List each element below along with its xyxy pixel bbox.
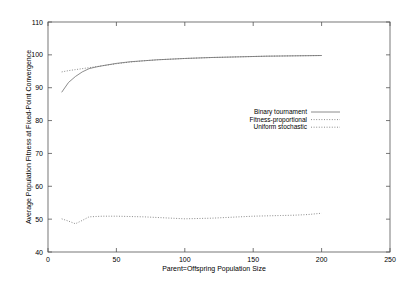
series-line-2 bbox=[62, 213, 322, 224]
plot-frame-group bbox=[48, 22, 390, 252]
y-tick-label: 60 bbox=[35, 183, 43, 190]
series-line-0 bbox=[62, 56, 322, 93]
tick-marks-group bbox=[48, 22, 390, 252]
y-axis-title: Average Population Fitness at Fixed-Poin… bbox=[25, 50, 33, 224]
y-tick-label: 50 bbox=[35, 216, 43, 223]
x-tick-label: 50 bbox=[113, 256, 121, 263]
series-line-1 bbox=[62, 56, 322, 72]
y-tick-label: 110 bbox=[32, 19, 43, 26]
x-tick-label: 200 bbox=[316, 256, 328, 263]
y-tick-label: 80 bbox=[35, 117, 43, 124]
y-tick-label: 70 bbox=[35, 150, 43, 157]
x-tick-label: 150 bbox=[247, 256, 259, 263]
x-tick-label: 0 bbox=[46, 256, 50, 263]
y-tick-label: 90 bbox=[35, 84, 43, 91]
line-chart: 050100150200250 405060708090100110 Binar… bbox=[0, 0, 413, 285]
data-series-group bbox=[62, 56, 322, 224]
y-tick-label: 40 bbox=[35, 249, 43, 256]
y-tick-labels-group: 405060708090100110 bbox=[31, 19, 43, 256]
legend-label-2: Uniform stochastic bbox=[254, 123, 308, 130]
x-tick-label: 100 bbox=[179, 256, 191, 263]
y-tick-label: 100 bbox=[31, 51, 43, 58]
legend: Binary tournamentFitness-proportionalUni… bbox=[250, 108, 340, 130]
x-tick-labels-group: 050100150200250 bbox=[46, 256, 396, 263]
x-axis-title: Parent=Offspring Population Size bbox=[162, 265, 266, 273]
chart-figure: 050100150200250 405060708090100110 Binar… bbox=[0, 0, 413, 285]
x-tick-label: 250 bbox=[384, 256, 396, 263]
